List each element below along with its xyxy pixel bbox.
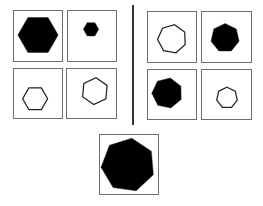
cell-left-1 [13,10,63,62]
heptagon-filled-icon [202,12,251,62]
hexagon-filled-icon [68,11,116,61]
hexagon-filled-icon [14,11,62,61]
group-divider [132,5,134,125]
heptagon-filled-icon [100,135,158,194]
cell-right-3 [147,69,197,120]
cell-right-2 [201,11,252,63]
heptagon-filled-icon [148,70,196,119]
cell-left-4 [66,68,117,119]
cell-right-4 [201,69,252,120]
heptagon-outline-icon [202,70,251,119]
cell-left-2 [67,10,117,62]
heptagon-outline-icon [148,12,196,62]
hexagon-outline-icon [14,69,62,118]
cell-right-1 [147,11,197,63]
answer-cell[interactable] [99,134,159,195]
hexagon-outline-icon [67,69,116,118]
cell-left-3 [13,68,63,119]
